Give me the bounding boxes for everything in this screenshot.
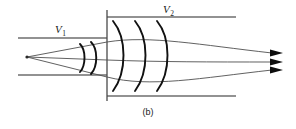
ray-upper xyxy=(27,40,272,57)
velocity-label-v2-subscript: 2 xyxy=(170,9,174,18)
wavefront-left-2 xyxy=(91,42,96,74)
wavefront-right-2 xyxy=(135,21,146,91)
figure-caption: (b) xyxy=(143,107,154,117)
arrowhead-upper xyxy=(270,50,283,57)
arrowhead-axis xyxy=(270,59,283,66)
velocity-label-v1: V1 xyxy=(55,23,66,38)
arrowhead-lower xyxy=(270,67,283,74)
focal-point xyxy=(25,55,28,58)
wave-refraction-figure: V1 V2 (b) xyxy=(0,0,296,129)
ray-axis xyxy=(27,57,272,62)
wavefront-left-1 xyxy=(80,44,85,72)
wavefront-right-3 xyxy=(157,21,168,91)
figure-canvas: V1 V2 (b) xyxy=(0,0,296,129)
velocity-label-v2: V2 xyxy=(163,3,174,18)
velocity-label-v1-subscript: 1 xyxy=(62,29,66,38)
wavefront-right-1 xyxy=(113,21,124,91)
